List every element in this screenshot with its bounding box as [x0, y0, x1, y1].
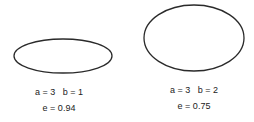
ellipse-2-eccentricity-label: e = 0.75	[178, 101, 211, 111]
ellipse-1-eccentricity-label: e = 0.94	[43, 103, 76, 113]
ellipse-1-params-label: a = 3 b = 1	[35, 87, 83, 97]
ellipse-diagram	[0, 0, 254, 122]
ellipse-flat	[14, 39, 112, 73]
ellipse-2-params-label: a = 3 b = 2	[170, 85, 218, 95]
ellipse-round	[144, 5, 244, 71]
